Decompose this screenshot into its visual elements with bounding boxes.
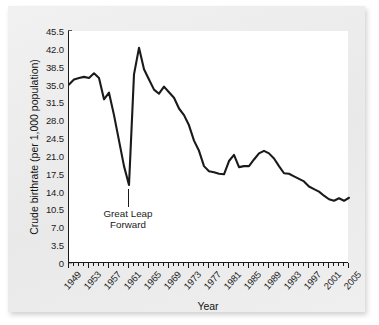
x-tick-mark xyxy=(133,263,134,266)
x-tick-mark xyxy=(288,263,289,268)
y-tick-label: 24.5 xyxy=(46,133,64,144)
x-tick-mark xyxy=(128,263,129,268)
x-tick-mark xyxy=(333,263,334,266)
x-tick-mark xyxy=(268,263,269,268)
y-tick-label: 17.5 xyxy=(46,168,64,179)
y-tick-label: 14.0 xyxy=(46,186,64,197)
crude-birthrate-line xyxy=(69,48,349,201)
x-tick-label: 1993 xyxy=(281,269,303,291)
x-tick-mark xyxy=(258,263,259,266)
x-tick-label: 1973 xyxy=(181,269,203,291)
x-tick-mark xyxy=(313,263,314,266)
x-tick-mark xyxy=(163,263,164,266)
x-tick-mark xyxy=(308,263,309,268)
y-tick-label: 38.5 xyxy=(46,61,64,72)
y-tick-label: 45.5 xyxy=(46,26,64,37)
x-tick-mark xyxy=(143,263,144,266)
x-tick-mark xyxy=(103,263,104,266)
y-tick-label: 3.5 xyxy=(51,240,64,251)
y-tick-label: 7.0 xyxy=(51,222,64,233)
x-tick-mark xyxy=(173,263,174,266)
x-tick-mark xyxy=(303,263,304,266)
x-tick-mark xyxy=(73,263,74,266)
x-tick-mark xyxy=(178,263,179,266)
x-tick-mark xyxy=(188,263,189,268)
annotation-line-2: Forward xyxy=(96,219,160,231)
x-tick-label: 2001 xyxy=(321,269,343,291)
annotation-line-1: Great Leap xyxy=(96,208,160,220)
x-tick-mark xyxy=(328,263,329,268)
x-tick-mark xyxy=(293,263,294,266)
x-tick-mark xyxy=(263,263,264,266)
x-tick-mark xyxy=(93,263,94,266)
x-tick-mark xyxy=(208,263,209,268)
figure-root: Crude birthrate (per 1,000 population) 4… xyxy=(0,0,379,325)
x-tick-mark xyxy=(248,263,249,268)
x-tick-mark xyxy=(193,263,194,266)
x-tick-mark xyxy=(118,263,119,266)
x-tick-mark xyxy=(283,263,284,266)
x-tick-mark xyxy=(343,263,344,266)
y-tick-label: 35.0 xyxy=(46,79,64,90)
x-tick-label: 1977 xyxy=(201,269,223,291)
x-axis-tick-labels: 1949195319571961196519691973197719811985… xyxy=(68,269,358,303)
x-tick-mark xyxy=(348,263,349,268)
x-tick-mark xyxy=(338,263,339,266)
x-tick-mark xyxy=(198,263,199,266)
x-tick-mark xyxy=(153,263,154,266)
x-tick-mark xyxy=(273,263,274,266)
x-tick-mark xyxy=(83,263,84,266)
x-tick-label: 1953 xyxy=(81,269,103,291)
x-tick-label: 1985 xyxy=(241,269,263,291)
x-tick-mark xyxy=(243,263,244,266)
x-tick-mark xyxy=(113,263,114,266)
annotation-great-leap-forward: Great Leap Forward xyxy=(96,208,160,231)
x-tick-mark xyxy=(68,263,69,268)
x-tick-mark xyxy=(228,263,229,268)
x-tick-mark xyxy=(138,263,139,266)
y-tick-label: 21.0 xyxy=(46,150,64,161)
x-tick-mark xyxy=(213,263,214,266)
x-tick-label: 1997 xyxy=(301,269,323,291)
x-tick-label: 1961 xyxy=(121,269,143,291)
y-tick-label: 28.0 xyxy=(46,115,64,126)
x-tick-mark xyxy=(223,263,224,266)
x-tick-mark xyxy=(108,263,109,268)
annotation-leader-line xyxy=(128,189,129,207)
y-axis-tick-labels: 45.542.038.535.031.528.024.521.017.514.0… xyxy=(28,31,64,263)
x-tick-mark xyxy=(323,263,324,266)
x-tick-mark xyxy=(203,263,204,266)
x-tick-mark xyxy=(218,263,219,266)
x-tick-label: 1969 xyxy=(161,269,183,291)
x-tick-label: 1981 xyxy=(221,269,243,291)
x-tick-mark xyxy=(158,263,159,266)
x-tick-mark xyxy=(238,263,239,266)
x-tick-mark xyxy=(298,263,299,266)
x-tick-label: 1989 xyxy=(261,269,283,291)
x-tick-mark xyxy=(253,263,254,266)
y-tick-label: 42.0 xyxy=(46,43,64,54)
x-tick-mark xyxy=(88,263,89,268)
x-tick-mark xyxy=(78,263,79,266)
x-tick-mark xyxy=(278,263,279,266)
x-tick-label: 1965 xyxy=(141,269,163,291)
x-tick-mark xyxy=(148,263,149,268)
x-axis-title: Year xyxy=(68,300,348,312)
y-tick-label: 31.5 xyxy=(46,97,64,108)
x-tick-mark xyxy=(318,263,319,266)
x-tick-mark xyxy=(183,263,184,266)
y-tick-label: 0 xyxy=(59,258,64,269)
y-tick-label: 10.5 xyxy=(46,204,64,215)
x-tick-mark xyxy=(233,263,234,266)
x-tick-mark xyxy=(98,263,99,266)
x-tick-mark xyxy=(168,263,169,268)
x-tick-mark xyxy=(123,263,124,266)
x-tick-label: 1957 xyxy=(101,269,123,291)
